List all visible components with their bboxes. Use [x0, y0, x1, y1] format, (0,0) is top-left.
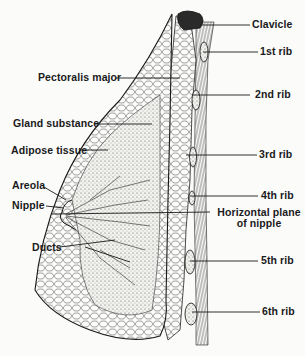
label-1st-rib: 1st rib — [260, 46, 292, 57]
label-2nd-rib: 2nd rib — [255, 89, 291, 100]
label-ducts: Ducts — [32, 242, 62, 253]
label-3rd-rib: 3rd rib — [259, 149, 292, 160]
label-areola: Areola — [12, 180, 45, 191]
label-gland-substance: Gland substance — [13, 118, 99, 129]
breast-anatomy-diagram: Clavicle 1st rib Pectoralis major 2nd ri… — [0, 0, 305, 356]
label-nipple: Nipple — [12, 200, 45, 211]
clavicle-bone — [178, 11, 203, 30]
label-5th-rib: 5th rib — [261, 255, 294, 266]
label-adipose-tissue: Adipose tissue — [11, 145, 87, 156]
label-6th-rib: 6th rib — [262, 306, 295, 317]
label-horizontal-plane: Horizontal plane of nipple — [213, 207, 305, 229]
label-horizontal-plane-line2: of nipple — [237, 217, 282, 229]
label-pectoralis-major: Pectoralis major — [38, 72, 121, 83]
label-4th-rib: 4th rib — [261, 190, 294, 201]
label-clavicle: Clavicle — [252, 19, 293, 30]
chest-wall — [194, 22, 214, 345]
